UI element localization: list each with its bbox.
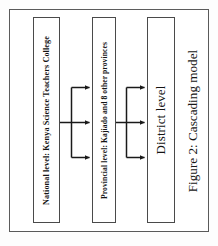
figure-cascading-model: National level: Kenya Science Teachers C… bbox=[0, 0, 218, 246]
figure-caption: Figure 2: Cascading model bbox=[176, 9, 210, 232]
box-national-level: National level: Kenya Science Teachers C… bbox=[33, 17, 60, 223]
box-district-level: District level bbox=[147, 17, 175, 223]
box-national-level-label: National level: Kenya Science Teachers C… bbox=[42, 35, 51, 204]
box-district-level-label: District level bbox=[153, 86, 169, 155]
figure-caption-text: Figure 2: Cascading model bbox=[185, 49, 201, 191]
box-provincial-level: Provincial level: Kajiado and 8 other pr… bbox=[92, 17, 116, 223]
box-provincial-level-label: Provincial level: Kajiado and 8 other pr… bbox=[100, 42, 109, 199]
